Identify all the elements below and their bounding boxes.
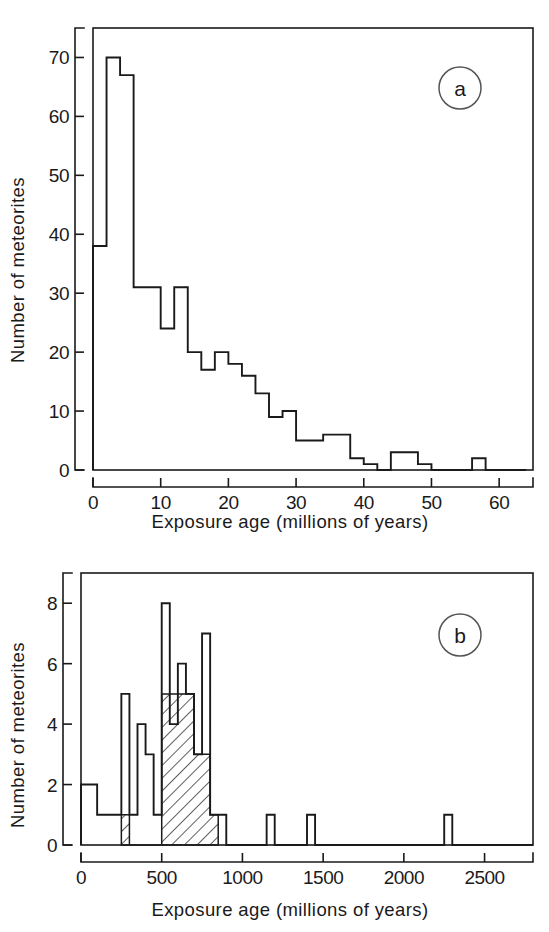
x-tick-label: 60	[489, 492, 509, 513]
y-tick-label: 50	[49, 165, 69, 186]
x-tick-label: 10	[151, 492, 171, 513]
y-tick-label: 20	[49, 342, 69, 363]
y-tick-label: 4	[47, 714, 58, 735]
y-tick-label: 8	[47, 593, 57, 614]
x-tick-label: 0	[76, 867, 86, 888]
x-tick-label: 500	[147, 867, 177, 888]
y-axis-a: 010203040506070	[49, 28, 84, 481]
x-axis-a: 0102030405060	[88, 478, 533, 513]
panel-label-b: b	[439, 614, 481, 656]
x-tick-label: 1000	[222, 867, 262, 888]
plot-frame-b	[81, 573, 533, 845]
y-tick-label: 10	[49, 401, 69, 422]
x-tick-label: 0	[88, 492, 98, 513]
x-tick-label: 20	[218, 492, 238, 513]
meteorite-exposure-age-figure: 010203040506070 0102030405060 a Exposure…	[0, 0, 549, 932]
x-tick-label: 2000	[384, 867, 424, 888]
panel-a-plot: 010203040506070 0102030405060 a Exposure…	[0, 0, 549, 545]
y-tick-label: 0	[47, 835, 57, 856]
panel-label-b-text: b	[454, 624, 466, 647]
y-axis-b: 02468	[47, 573, 72, 856]
panel-label-a-text: a	[454, 77, 466, 100]
x-axis-title-b: Exposure age (millions of years)	[151, 899, 428, 920]
panel-b-plot: 02468 05001000150020002500 b Exposure ag…	[0, 545, 549, 932]
x-axis-title-a: Exposure age (millions of years)	[151, 511, 428, 532]
x-tick-label: 1500	[303, 867, 343, 888]
y-tick-label: 30	[49, 283, 69, 304]
y-tick-label: 6	[47, 654, 57, 675]
x-tick-label: 50	[421, 492, 441, 513]
panel-b: 02468 05001000150020002500 b Exposure ag…	[0, 545, 549, 932]
x-tick-label: 2500	[464, 867, 504, 888]
panel-a: 010203040506070 0102030405060 a Exposure…	[0, 0, 549, 545]
y-tick-label: 40	[49, 224, 69, 245]
y-tick-label: 0	[59, 460, 69, 481]
plot-frame-a	[93, 28, 533, 470]
x-tick-label: 30	[286, 492, 306, 513]
y-tick-label: 2	[47, 775, 57, 796]
panel-label-a: a	[439, 67, 481, 109]
x-axis-b: 05001000150020002500	[76, 853, 533, 888]
histogram-outline-a	[93, 57, 526, 470]
y-axis-title-a: Number of meteorites	[7, 177, 28, 363]
y-tick-label: 60	[49, 106, 69, 127]
x-tick-label: 40	[354, 492, 374, 513]
y-axis-title-b: Number of meteorites	[7, 642, 28, 828]
y-tick-label: 70	[49, 47, 69, 68]
